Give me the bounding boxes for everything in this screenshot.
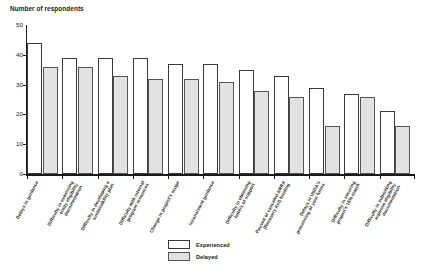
bar-group bbox=[380, 25, 415, 174]
chart-legend: Experienced Delayed bbox=[168, 240, 298, 264]
legend-item-experienced: Experienced bbox=[168, 240, 298, 249]
bar-experienced[interactable] bbox=[274, 76, 289, 174]
bar-group bbox=[239, 25, 274, 174]
x-axis-label-cell: Difficulty in submitting expense eligibi… bbox=[380, 178, 415, 240]
y-axis-tick-label: 10 bbox=[16, 141, 23, 147]
bar-group bbox=[98, 25, 133, 174]
bar-delayed[interactable] bbox=[360, 97, 375, 174]
bar-experienced[interactable] bbox=[168, 64, 183, 174]
bar-experienced[interactable] bbox=[344, 94, 359, 174]
legend-swatch-delayed bbox=[168, 252, 190, 261]
bar-chart: Number of respondents 01020304050 Delays… bbox=[0, 0, 425, 271]
bar-experienced[interactable] bbox=[309, 88, 324, 174]
bar-delayed[interactable] bbox=[325, 126, 340, 174]
bar-delayed[interactable] bbox=[289, 97, 304, 174]
bar-groups bbox=[27, 25, 415, 174]
bar-group bbox=[274, 25, 309, 174]
bar-experienced[interactable] bbox=[62, 58, 77, 174]
bar-experienced[interactable] bbox=[98, 58, 113, 174]
bar-experienced[interactable] bbox=[133, 58, 148, 174]
y-axis-tick-label: 30 bbox=[16, 82, 23, 88]
bar-group bbox=[203, 25, 238, 174]
bar-delayed[interactable] bbox=[184, 79, 199, 174]
bar-delayed[interactable] bbox=[78, 67, 93, 174]
y-axis-tick-label: 20 bbox=[16, 111, 23, 117]
x-axis-category-labels: Delays in guidanceDifficulty in examinin… bbox=[27, 178, 415, 240]
legend-label-experienced: Experienced bbox=[196, 242, 230, 248]
bar-experienced[interactable] bbox=[27, 43, 42, 174]
y-axis-tick-label: 50 bbox=[16, 22, 23, 28]
bar-delayed[interactable] bbox=[148, 79, 163, 174]
bar-group bbox=[27, 25, 62, 174]
bar-experienced[interactable] bbox=[203, 64, 218, 174]
bar-delayed[interactable] bbox=[113, 76, 128, 174]
bar-group bbox=[168, 25, 203, 174]
legend-item-delayed: Delayed bbox=[168, 252, 298, 261]
bar-delayed[interactable] bbox=[395, 126, 410, 174]
legend-swatch-experienced bbox=[168, 240, 190, 249]
bar-delayed[interactable] bbox=[43, 67, 58, 174]
y-axis-tick-label: 40 bbox=[16, 52, 23, 58]
bar-delayed[interactable] bbox=[219, 82, 234, 174]
bar-group bbox=[133, 25, 168, 174]
bar-group bbox=[309, 25, 344, 174]
bar-delayed[interactable] bbox=[254, 91, 269, 174]
legend-label-delayed: Delayed bbox=[196, 254, 218, 260]
bar-experienced[interactable] bbox=[239, 70, 254, 174]
bar-experienced[interactable] bbox=[380, 111, 395, 174]
bar-group bbox=[62, 25, 97, 174]
bar-group bbox=[344, 25, 379, 174]
